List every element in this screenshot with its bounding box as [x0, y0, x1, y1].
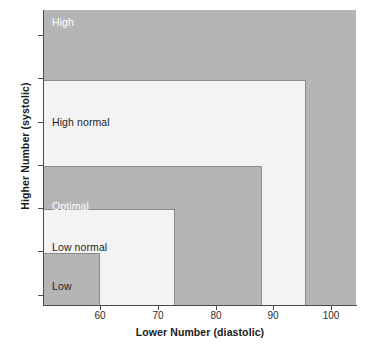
y-tick-130 [38, 165, 44, 166]
x-tick-label-100: 100 [311, 310, 351, 321]
y-axis-title: Higher Number (systolic) [19, 46, 31, 246]
y-tick-160 [38, 35, 44, 36]
x-tick-label-90: 90 [253, 310, 293, 321]
y-tick-150 [38, 78, 44, 79]
y-tick-100 [38, 295, 44, 296]
x-axis-title: Lower Number (diastolic) [44, 326, 356, 338]
region-label-high-normal: High normal [52, 116, 110, 128]
region-label-low: Low [52, 280, 72, 292]
region-label-high: High [52, 16, 74, 28]
x-tick-label-80: 80 [196, 310, 236, 321]
x-axis-line [43, 305, 357, 306]
blood-pressure-chart: Higher Number (systolic) High High norma… [0, 0, 368, 347]
x-tick-label-70: 70 [138, 310, 178, 321]
region-label-optimal: Optimal [52, 200, 89, 212]
x-tick-label-60: 60 [80, 310, 120, 321]
y-tick-140 [38, 122, 44, 123]
plot-area: High High normal Optimal Low normal Low [44, 10, 356, 305]
y-axis-line [43, 10, 44, 306]
y-tick-120 [38, 208, 44, 209]
region-label-low-normal: Low normal [52, 241, 107, 253]
y-tick-110 [38, 251, 44, 252]
region-low [44, 253, 100, 305]
